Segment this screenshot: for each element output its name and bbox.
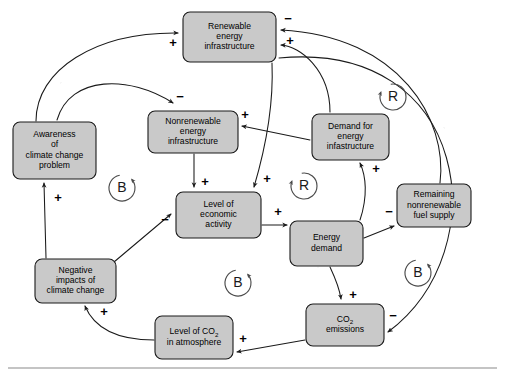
polarity-co2level-to-negativeimpacts: +: [100, 304, 108, 319]
node-co2-emissions[interactable]: CO2emissions: [306, 304, 384, 346]
node-label-line: emissions: [326, 324, 364, 334]
polarity-co2emissions-to-co2level: +: [239, 331, 247, 346]
loop-letter: B: [117, 179, 126, 195]
link-demandinfra-to-nonrenewable: [242, 126, 310, 140]
polarity-energydemand-to-demandinfra: +: [372, 161, 380, 176]
node-co2-level[interactable]: Level of CO2in atmosphere: [155, 316, 233, 359]
link-co2level-to-negativeimpacts: [85, 306, 154, 340]
loop-marker-loop-b-center: B: [225, 270, 251, 296]
loop-letter: R: [299, 177, 309, 193]
link-negativeimpacts-to-awareness: [44, 183, 46, 258]
node-label-line: climate change: [47, 286, 105, 296]
link-energydemand-to-remainingfuel: [364, 226, 394, 238]
link-energydemand-to-demandinfra: [360, 163, 365, 220]
polarity-renewable-to-co2emissions: −: [389, 308, 397, 323]
polarity-negativeimpacts-to-awareness: +: [54, 190, 62, 205]
loop-marker-loop-b-emissions: B: [405, 260, 431, 286]
node-label-line: demand: [311, 243, 342, 253]
node-label-line: Remaining: [413, 189, 454, 199]
node-awareness[interactable]: Awarenessofclimate changeproblem: [13, 122, 96, 179]
polarity-remainingfuel-to-renewable: −: [284, 11, 292, 26]
node-label-line: energy: [337, 131, 364, 141]
node-label-line: nonrenewable: [407, 200, 461, 210]
loop-marker-loop-b-awareness: B: [109, 175, 135, 201]
loop-letter: B: [413, 264, 422, 280]
link-renewable-to-economic: [254, 63, 272, 187]
polarity-economic-to-energydemand: +: [274, 204, 282, 219]
node-economic[interactable]: Level ofeconomicactivity: [176, 192, 261, 238]
node-label-line: Energy: [313, 233, 341, 243]
polarity-demandinfra-to-nonrenewable: +: [241, 107, 249, 122]
loop-letter: B: [233, 274, 242, 290]
polarity-awareness-to-renewable: +: [169, 35, 177, 50]
polarity-demandinfra-to-renewable: +: [286, 33, 294, 48]
node-label-line: fuel supply: [413, 210, 455, 220]
polarity-nonrenewable-to-economic: +: [201, 174, 209, 189]
node-layer: RenewableenergyinfrastructureAwarenessof…: [13, 12, 471, 359]
node-negative-impacts[interactable]: Negativeimpacts ofclimate change: [35, 259, 116, 303]
node-nonrenewable[interactable]: Nonrenewableenergyinfrastructure: [148, 111, 238, 153]
polarity-negativeimpacts-to-economic: −: [161, 212, 169, 227]
link-layer: [36, 30, 452, 352]
link-awareness-to-renewable: [36, 33, 178, 121]
polarity-renewable-to-economic: +: [263, 171, 271, 186]
polarity-energydemand-to-co2emissions: +: [349, 287, 357, 302]
node-label-line: energy: [180, 126, 207, 136]
node-label-line: energy: [216, 31, 243, 41]
link-co2emissions-to-co2level: [237, 340, 305, 352]
node-remaining-fuel[interactable]: Remainingnonrenewablefuel supply: [397, 184, 471, 227]
node-demand-infra[interactable]: Demand forenergyinfastructure: [312, 114, 389, 160]
node-label-line: economic: [200, 209, 237, 219]
loop-marker-loop-r-economic: R: [291, 173, 317, 199]
polarity-awareness-to-nonrenewable: −: [176, 89, 184, 104]
node-label-line: Level of CO2: [170, 327, 219, 338]
link-demandinfra-to-renewable: [281, 45, 330, 112]
node-label-line: in atmosphere: [167, 337, 222, 347]
diagram-canvas: RenewableenergyinfrastructureAwarenessof…: [0, 0, 505, 376]
node-energy-demand[interactable]: Energydemand: [290, 221, 363, 266]
polarity-energydemand-to-remainingfuel: −: [385, 204, 393, 219]
node-label-line: Renewable: [208, 21, 251, 31]
node-label-line: infrastructure: [168, 137, 218, 147]
node-label-line: climate change: [26, 150, 84, 160]
loop-letter: R: [388, 88, 398, 104]
loop-marker-loop-r-demand: R: [380, 84, 406, 110]
node-label-line: Awareness: [33, 129, 75, 139]
node-label-line: problem: [39, 160, 70, 170]
node-label-line: Demand for: [328, 121, 373, 131]
causal-loop-diagram: RenewableenergyinfrastructureAwarenessof…: [0, 0, 505, 376]
node-label-line: infastructure: [327, 142, 375, 152]
link-energydemand-to-co2emissions: [330, 267, 341, 299]
node-label-line: impacts of: [56, 275, 96, 285]
node-label-line: Level of: [203, 199, 234, 209]
node-label-line: Negative: [59, 265, 93, 275]
node-label-line: activity: [205, 220, 232, 230]
node-label-line: Nonrenewable: [165, 116, 221, 126]
node-label-line: of: [51, 140, 59, 150]
node-label-line: infrastructure: [204, 42, 254, 52]
node-renewable[interactable]: Renewableenergyinfrastructure: [183, 12, 276, 62]
